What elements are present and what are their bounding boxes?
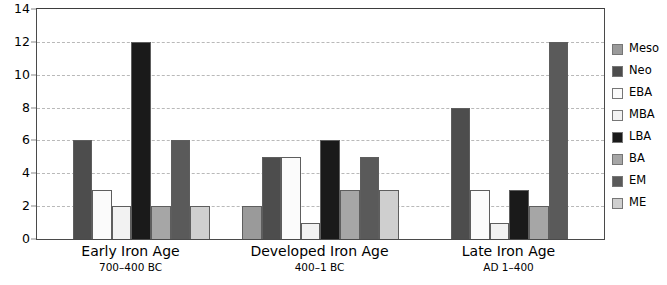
x-axis-labels: Early Iron Age700–400 BCDeveloped Iron A… bbox=[36, 243, 605, 285]
legend-swatch-icon bbox=[612, 88, 623, 99]
bar-slot bbox=[190, 9, 210, 239]
bars-layer bbox=[37, 9, 604, 239]
bar-lba-developed-iron-age[interactable] bbox=[320, 140, 340, 239]
bar-neo-early-iron-age[interactable] bbox=[73, 140, 93, 239]
x-axis-group-label: Developed Iron Age400–1 BC bbox=[225, 243, 414, 285]
bar-slot bbox=[242, 9, 262, 239]
legend-swatch-icon bbox=[612, 110, 623, 121]
bar-neo-developed-iron-age[interactable] bbox=[262, 157, 282, 239]
bar-group bbox=[37, 9, 226, 239]
bar-slot bbox=[151, 9, 171, 239]
x-axis-category-daterange: 400–1 BC bbox=[295, 261, 345, 274]
legend-swatch-icon bbox=[612, 176, 623, 187]
legend-item-neo[interactable]: Neo bbox=[612, 60, 667, 82]
legend-item-label: EM bbox=[629, 175, 646, 187]
legend-item-label: LBA bbox=[629, 131, 651, 143]
bar-mba-developed-iron-age[interactable] bbox=[301, 223, 321, 239]
legend-item-label: Neo bbox=[629, 65, 652, 77]
bar-mba-late-iron-age[interactable] bbox=[490, 223, 510, 239]
bar-slot bbox=[470, 9, 490, 239]
x-axis-category-name: Developed Iron Age bbox=[250, 243, 388, 259]
legend-item-mba[interactable]: MBA bbox=[612, 104, 667, 126]
bar-em-early-iron-age[interactable] bbox=[171, 140, 191, 239]
bar-group bbox=[226, 9, 415, 239]
x-axis-group-label: Late Iron AgeAD 1–400 bbox=[414, 243, 603, 285]
bar-me-early-iron-age[interactable] bbox=[190, 206, 210, 239]
bar-eba-late-iron-age[interactable] bbox=[470, 190, 490, 239]
y-axis-tick-label: 14 bbox=[14, 3, 30, 16]
y-axis-tick-label: 4 bbox=[22, 167, 30, 180]
bar-slot bbox=[53, 9, 73, 239]
bar-slot bbox=[549, 9, 569, 239]
bar-me-developed-iron-age[interactable] bbox=[379, 190, 399, 239]
legend-item-em[interactable]: EM bbox=[612, 170, 667, 192]
bar-slot bbox=[171, 9, 191, 239]
bar-neo-late-iron-age[interactable] bbox=[451, 108, 471, 239]
bar-lba-late-iron-age[interactable] bbox=[509, 190, 529, 239]
bar-slot bbox=[490, 9, 510, 239]
bar-eba-developed-iron-age[interactable] bbox=[281, 157, 301, 239]
legend-item-me[interactable]: ME bbox=[612, 192, 667, 214]
bar-ba-developed-iron-age[interactable] bbox=[340, 190, 360, 239]
bar-mba-early-iron-age[interactable] bbox=[112, 206, 132, 239]
bar-slot bbox=[529, 9, 549, 239]
bar-slot bbox=[112, 9, 132, 239]
bar-eba-early-iron-age[interactable] bbox=[92, 190, 112, 239]
x-axis-category-name: Early Iron Age bbox=[81, 243, 179, 259]
x-axis-category-name: Late Iron Age bbox=[462, 243, 555, 259]
legend-swatch-icon bbox=[612, 154, 623, 165]
bar-slot bbox=[262, 9, 282, 239]
bar-chart: 02468101214 Early Iron Age700–400 BCDeve… bbox=[0, 0, 667, 285]
y-axis: 02468101214 bbox=[0, 8, 36, 240]
bar-slot bbox=[73, 9, 93, 239]
legend-item-ba[interactable]: BA bbox=[612, 148, 667, 170]
x-axis-category-daterange: AD 1–400 bbox=[483, 261, 534, 274]
bar-group bbox=[415, 9, 604, 239]
bar-slot bbox=[360, 9, 380, 239]
legend-swatch-icon bbox=[612, 66, 623, 77]
legend-item-label: MBA bbox=[629, 109, 655, 121]
y-axis-tick-label: 10 bbox=[14, 68, 30, 81]
chart-legend: MesoNeoEBAMBALBABAEMME bbox=[612, 38, 667, 214]
bar-slot bbox=[320, 9, 340, 239]
y-axis-tick-label: 6 bbox=[22, 134, 30, 147]
x-axis-group-label: Early Iron Age700–400 BC bbox=[36, 243, 225, 285]
bar-slot bbox=[92, 9, 112, 239]
bar-slot bbox=[281, 9, 301, 239]
legend-item-label: BA bbox=[629, 153, 645, 165]
bar-slot bbox=[568, 9, 588, 239]
y-axis-tick-label: 0 bbox=[22, 233, 30, 246]
y-axis-tick-label: 12 bbox=[14, 36, 30, 49]
bar-em-developed-iron-age[interactable] bbox=[360, 157, 380, 239]
legend-swatch-icon bbox=[612, 132, 623, 143]
bar-meso-developed-iron-age[interactable] bbox=[242, 206, 262, 239]
legend-item-label: Meso bbox=[629, 43, 659, 55]
bar-slot bbox=[131, 9, 151, 239]
bar-slot bbox=[431, 9, 451, 239]
legend-item-lba[interactable]: LBA bbox=[612, 126, 667, 148]
x-axis-category-daterange: 700–400 BC bbox=[99, 261, 162, 274]
legend-item-meso[interactable]: Meso bbox=[612, 38, 667, 60]
legend-swatch-icon bbox=[612, 198, 623, 209]
bar-ba-early-iron-age[interactable] bbox=[151, 206, 171, 239]
bar-slot bbox=[301, 9, 321, 239]
bar-ba-late-iron-age[interactable] bbox=[529, 206, 549, 239]
y-axis-tick-label: 2 bbox=[22, 200, 30, 213]
bar-em-late-iron-age[interactable] bbox=[549, 42, 569, 239]
bar-slot bbox=[509, 9, 529, 239]
legend-item-label: EBA bbox=[629, 87, 652, 99]
bar-slot bbox=[340, 9, 360, 239]
legend-item-eba[interactable]: EBA bbox=[612, 82, 667, 104]
legend-swatch-icon bbox=[612, 44, 623, 55]
y-axis-tick-label: 8 bbox=[22, 101, 30, 114]
plot-area bbox=[36, 8, 605, 240]
bar-slot bbox=[451, 9, 471, 239]
legend-item-label: ME bbox=[629, 197, 646, 209]
bar-slot bbox=[379, 9, 399, 239]
bar-lba-early-iron-age[interactable] bbox=[131, 42, 151, 239]
